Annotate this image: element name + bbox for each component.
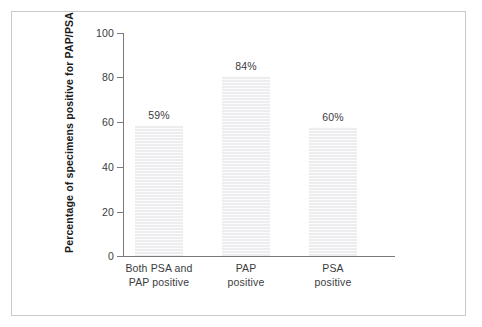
y-tick-mark-40 bbox=[117, 167, 123, 168]
y-tick-mark-20 bbox=[117, 212, 123, 213]
y-tick-mark-0 bbox=[117, 256, 123, 257]
bar-value-label-3: 60% bbox=[297, 111, 369, 123]
y-tick-80: 80 bbox=[0, 71, 114, 83]
y-tick-0: 0 bbox=[0, 250, 114, 262]
bar-psa-positive bbox=[309, 127, 357, 256]
bar-value-label-1: 59% bbox=[123, 109, 195, 121]
y-tick-100: 100 bbox=[0, 27, 114, 39]
y-tick-label-100: 100 bbox=[0, 27, 114, 39]
x-category-label-3-line-2: positive bbox=[268, 276, 398, 290]
bar-value-label-2: 84% bbox=[210, 60, 282, 72]
x-category-label-3: PSA positive bbox=[268, 262, 398, 289]
y-tick-20: 20 bbox=[0, 206, 114, 218]
bar-pap-positive bbox=[222, 76, 270, 256]
y-tick-mark-80 bbox=[117, 77, 123, 78]
y-tick-mark-100 bbox=[117, 33, 123, 34]
y-tick-60: 60 bbox=[0, 116, 114, 128]
y-tick-label-20: 20 bbox=[0, 206, 114, 218]
y-tick-40: 40 bbox=[0, 161, 114, 173]
x-axis-line bbox=[123, 256, 395, 257]
plot-area: Percentage of specimens positive for PAP… bbox=[0, 0, 482, 327]
y-axis-line bbox=[123, 33, 124, 257]
y-tick-mark-60 bbox=[117, 122, 123, 123]
y-tick-label-0: 0 bbox=[0, 250, 114, 262]
y-tick-label-60: 60 bbox=[0, 116, 114, 128]
y-tick-label-80: 80 bbox=[0, 71, 114, 83]
bar-both-psa-and-pap-positive bbox=[135, 125, 183, 256]
y-tick-label-40: 40 bbox=[0, 161, 114, 173]
figure-container: Percentage of specimens positive for PAP… bbox=[0, 0, 482, 327]
y-axis-title: Percentage of specimens positive for PAP… bbox=[63, 27, 75, 253]
x-category-label-3-line-1: PSA bbox=[268, 262, 398, 276]
